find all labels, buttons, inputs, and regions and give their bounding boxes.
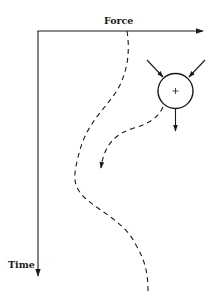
diagram-canvas — [0, 0, 214, 297]
incoming-force-arrow-right — [189, 60, 205, 77]
incoming-force-arrow-left — [147, 60, 163, 77]
long-dashed-trajectory — [75, 31, 148, 292]
short-dashed-trajectory — [101, 107, 163, 168]
force-axis-label: Force — [104, 16, 133, 26]
time-axis-label: Time — [8, 260, 35, 270]
